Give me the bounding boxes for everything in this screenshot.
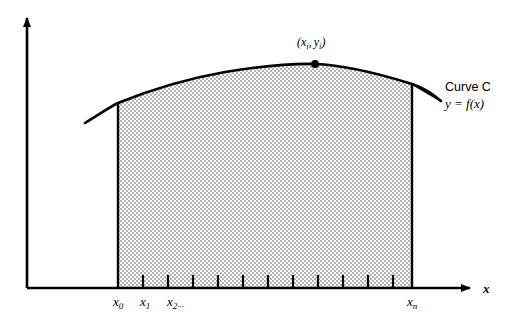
curve-equation-label: y = f(x)	[443, 96, 484, 111]
partition-label-x1-sub: 1	[146, 301, 151, 311]
partition-label-x1: x1	[139, 294, 150, 311]
point-marker	[311, 60, 319, 68]
partition-label-x0-sub: 0	[119, 301, 124, 311]
partition-label-x2: x2···	[166, 294, 184, 311]
partition-label-xn-sub: n	[413, 301, 418, 311]
diagram-svg: (xi,yi) Curve C y = f(x) x x0 x1 x2··· x…	[0, 0, 524, 321]
curve-name-label: Curve C	[445, 80, 491, 94]
point-label-comma: ,	[309, 35, 312, 49]
point-label-close: )	[320, 35, 325, 49]
partition-label-x0: x0	[112, 294, 124, 311]
shaded-area-region	[118, 64, 412, 288]
point-label-group: (xi,yi)	[297, 35, 325, 51]
partition-label-xn: xn	[406, 294, 418, 311]
x-axis-label: x	[482, 281, 490, 296]
curve-leader-line	[412, 84, 441, 101]
partition-label-x2-trail: ···	[177, 301, 184, 311]
figure-container: (xi,yi) Curve C y = f(x) x x0 x1 x2··· x…	[0, 0, 524, 321]
